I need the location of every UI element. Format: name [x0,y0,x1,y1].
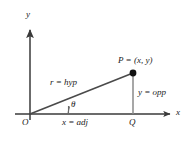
opposite-side-label: y = opp [138,88,166,97]
point-q-label: Q [129,118,136,127]
origin-label: O [22,118,29,127]
trigonometry-figure: y x O Q P = (x, y) r = hyp y = opp x = a… [0,0,190,146]
point-p-marker [130,70,137,77]
hypotenuse-label: r = hyp [50,78,77,87]
x-axis-label: x [176,108,180,117]
hypotenuse-line [30,73,133,114]
angle-theta-label: θ [71,100,75,109]
adjacent-side-label: x = adj [62,118,88,127]
y-axis-label: y [26,10,30,19]
point-p-label: P = (x, y) [118,56,152,65]
